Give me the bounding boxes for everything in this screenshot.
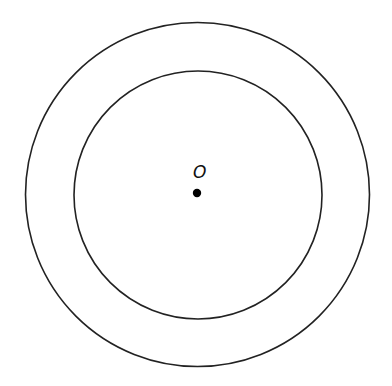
center-label: O — [193, 162, 206, 182]
concentric-circles-diagram: O — [0, 0, 392, 386]
center-point — [193, 189, 201, 197]
